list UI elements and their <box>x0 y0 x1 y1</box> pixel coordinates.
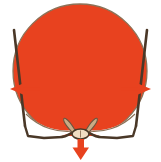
fetal-head <box>13 4 147 138</box>
lower-left-mask <box>0 120 22 162</box>
lower-right-mask <box>139 120 161 162</box>
diagram-canvas <box>0 0 161 162</box>
anatomical-diagram: Fetal head descending through the pelvic… <box>0 0 161 162</box>
